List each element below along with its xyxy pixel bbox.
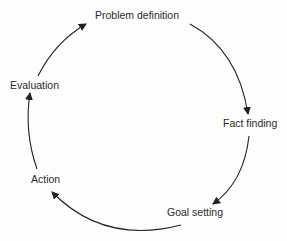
arrow-action-to-evaluation <box>28 93 37 169</box>
cycle-diagram: Problem definition Fact finding Goal set… <box>0 0 287 241</box>
node-action: Action <box>31 173 60 185</box>
node-fact-finding: Fact finding <box>223 117 277 129</box>
arrow-goal-to-action <box>52 192 181 230</box>
arrow-problem-to-fact <box>190 24 248 114</box>
arrow-evaluation-to-problem <box>38 24 86 76</box>
node-evaluation: Evaluation <box>10 79 59 91</box>
node-problem-definition: Problem definition <box>95 9 179 21</box>
node-goal-setting: Goal setting <box>167 206 223 218</box>
arrow-fact-to-goal <box>213 136 249 204</box>
